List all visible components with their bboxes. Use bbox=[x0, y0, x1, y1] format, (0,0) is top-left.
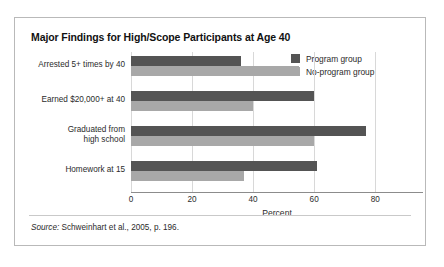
bar-group: Arrested 5+ times by 40 bbox=[131, 56, 421, 76]
category-label: Homework at 15 bbox=[65, 165, 125, 176]
bar-program bbox=[131, 91, 314, 101]
x-tick-label-60: 60 bbox=[310, 195, 319, 204]
source-note: Source: Schweinhart et al., 2005, p. 196… bbox=[31, 223, 179, 232]
bar-group: Homework at 15 bbox=[131, 161, 421, 181]
figure-container: Major Findings for High/Scope Participan… bbox=[14, 17, 426, 246]
x-tick-label-80: 80 bbox=[371, 195, 380, 204]
source-divider bbox=[29, 215, 411, 216]
x-tick-label-0: 0 bbox=[129, 195, 134, 204]
category-label-line: Graduated from bbox=[68, 125, 125, 136]
bar-noprogram bbox=[131, 101, 253, 111]
bar-noprogram bbox=[131, 171, 244, 181]
bar-program bbox=[131, 161, 317, 171]
category-label: Earned $20,000+ at 40 bbox=[41, 95, 125, 106]
category-label-line: Homework at 15 bbox=[65, 165, 125, 176]
category-label-line: Arrested 5+ times by 40 bbox=[38, 60, 125, 71]
x-tick-label-40: 40 bbox=[249, 195, 258, 204]
category-label-line: high school bbox=[68, 135, 125, 146]
category-label: Graduated fromhigh school bbox=[68, 125, 125, 146]
plot-area: Arrested 5+ times by 40Earned $20,000+ a… bbox=[131, 52, 421, 192]
bar-program bbox=[131, 56, 241, 66]
chart-title: Major Findings for High/Scope Participan… bbox=[31, 31, 290, 43]
bar-program bbox=[131, 126, 366, 136]
x-axis-line bbox=[131, 192, 423, 193]
category-label-line: Earned $20,000+ at 40 bbox=[41, 95, 125, 106]
source-citation: Schweinhart et al., 2005, p. 196. bbox=[62, 223, 179, 232]
source-label: Source: bbox=[31, 223, 59, 232]
x-axis-title: Percent bbox=[131, 208, 423, 218]
bar-group: Earned $20,000+ at 40 bbox=[131, 91, 421, 111]
x-tick-label-20: 20 bbox=[187, 195, 196, 204]
bar-group: Graduated fromhigh school bbox=[131, 126, 421, 146]
bar-noprogram bbox=[131, 136, 314, 146]
category-label: Arrested 5+ times by 40 bbox=[38, 60, 125, 71]
bar-noprogram bbox=[131, 66, 299, 76]
